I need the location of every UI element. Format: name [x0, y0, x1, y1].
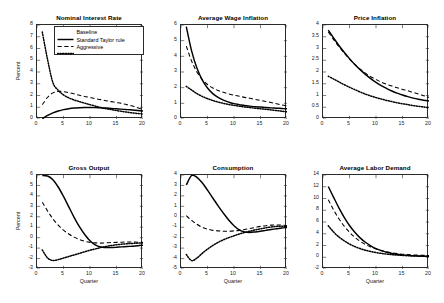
x-tick-label: 10: [81, 271, 97, 276]
x-axis-label: Quarter: [180, 278, 286, 284]
y-tick-label: -4: [158, 255, 177, 260]
x-tick-label: 15: [108, 271, 124, 276]
x-tick-label: 15: [108, 121, 124, 126]
figure-panel-grid: Nominal Interest Rate01234567805101520Pe…: [0, 0, 444, 303]
y-tick-label: 1: [300, 92, 319, 97]
y-tick-label: 1: [158, 100, 177, 105]
x-tick-label: 0: [172, 121, 188, 126]
series-line-solid: [42, 107, 143, 118]
panel-title: Average Labor Demand: [322, 164, 428, 172]
y-tick-label: 1.5: [300, 80, 319, 85]
panel-title: Price Inflation: [322, 14, 428, 22]
x-tick-label: 5: [199, 271, 215, 276]
legend-label: Standard Taylor rule: [77, 37, 125, 43]
x-tick-label: 15: [252, 271, 268, 276]
y-axis-label: Percent: [15, 203, 21, 239]
x-tick-label: 0: [314, 271, 330, 276]
x-tick-label: 0: [28, 271, 44, 276]
x-tick-label: 0: [28, 121, 44, 126]
y-axis-label: Percent: [15, 53, 21, 89]
y-tick-label: 8: [300, 206, 319, 211]
series-line-dashed: [186, 46, 287, 106]
x-tick-label: 20: [420, 271, 436, 276]
plot-area: [322, 174, 428, 268]
y-tick-label: 3.5: [300, 33, 319, 38]
panel-title: Average Wage Inflation: [180, 14, 286, 22]
x-tick-label: 5: [341, 121, 357, 126]
legend: BaselineStandard Taylor ruleAggressive: [54, 26, 144, 55]
legend-label: Aggressive: [77, 44, 104, 50]
x-tick-label: 20: [278, 271, 294, 276]
y-tick-label: 2: [158, 192, 177, 197]
x-tick-label: 15: [394, 121, 410, 126]
x-tick-label: 20: [278, 121, 294, 126]
x-tick-label: 10: [367, 271, 383, 276]
chart-panel-5: Consumption-5-4-3-2-10123405101520Quarte…: [158, 164, 290, 290]
x-tick-label: 0: [172, 271, 188, 276]
x-tick-label: 20: [134, 271, 150, 276]
legend-swatch-dotted-icon: [57, 43, 74, 50]
y-tick-label: 4: [14, 192, 33, 197]
x-tick-label: 15: [394, 271, 410, 276]
chart-panel-4: Gross Output-3-2-1012345605101520Percent…: [14, 164, 146, 290]
y-tick-label: 5: [158, 37, 177, 42]
plot-area: [322, 24, 428, 118]
x-tick-label: 5: [55, 121, 71, 126]
plot-area: [180, 174, 286, 268]
y-tick-label: -1: [14, 244, 33, 249]
y-tick-label: 2: [14, 92, 33, 97]
y-tick-label: 5: [14, 182, 33, 187]
y-tick-label: 6: [158, 21, 177, 26]
legend-swatch-dashed-icon: [57, 36, 74, 43]
legend-swatch-solid-icon: [57, 29, 74, 36]
y-tick-label: 12: [300, 183, 319, 188]
x-tick-label: 5: [341, 271, 357, 276]
x-tick-label: 20: [134, 121, 150, 126]
y-tick-label: -3: [158, 244, 177, 249]
legend-item-solid: Baseline: [57, 29, 141, 36]
legend-item-dashed: Standard Taylor rule: [57, 36, 141, 43]
x-tick-label: 10: [81, 121, 97, 126]
x-axis-label: Quarter: [322, 278, 428, 284]
panel-title: Consumption: [180, 164, 286, 172]
y-tick-label: 6: [14, 171, 33, 176]
panel-title: Gross Output: [36, 164, 142, 172]
x-tick-label: 15: [252, 121, 268, 126]
series-line-dotted: [42, 243, 143, 261]
y-tick-label: 3: [158, 182, 177, 187]
x-tick-label: 5: [199, 121, 215, 126]
series-line-dashed: [328, 200, 429, 256]
y-tick-label: -1: [158, 223, 177, 228]
y-tick-label: 6: [300, 218, 319, 223]
x-tick-label: 10: [225, 121, 241, 126]
y-tick-label: 2: [300, 68, 319, 73]
plot-area: [36, 174, 142, 268]
panel-title: Nominal Interest Rate: [36, 14, 142, 22]
y-tick-label: 0.5: [300, 103, 319, 108]
y-tick-label: 3: [158, 68, 177, 73]
x-tick-label: 10: [225, 271, 241, 276]
y-tick-label: 0: [300, 253, 319, 258]
chart-panel-2: Average Wage Inflation012345605101520: [158, 14, 290, 140]
y-tick-label: 6: [14, 45, 33, 50]
y-tick-label: 2: [158, 84, 177, 89]
y-tick-label: 4: [158, 53, 177, 58]
series-line-dashed: [328, 32, 429, 97]
plot-area: [180, 24, 286, 118]
y-tick-label: 4: [300, 21, 319, 26]
y-tick-label: 1: [158, 203, 177, 208]
series-line-dotted: [186, 226, 287, 261]
y-tick-label: 0: [158, 213, 177, 218]
x-axis-label: Quarter: [36, 278, 142, 284]
y-tick-label: 1: [14, 103, 33, 108]
x-tick-label: 0: [314, 121, 330, 126]
y-tick-label: -2: [14, 255, 33, 260]
x-tick-label: 20: [420, 121, 436, 126]
y-tick-label: 2.5: [300, 56, 319, 61]
series-line-solid: [328, 186, 429, 256]
series-line-solid: [186, 175, 287, 232]
legend-item-dotted: Aggressive: [57, 43, 141, 50]
y-tick-label: 4: [300, 230, 319, 235]
y-tick-label: 2: [300, 242, 319, 247]
chart-panel-3: Price Inflation00.511.522.533.5405101520: [300, 14, 432, 140]
